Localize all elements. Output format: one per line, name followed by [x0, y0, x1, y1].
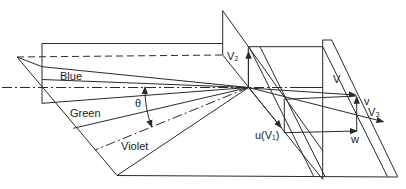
label-u-v1: u(V₁): [255, 129, 280, 141]
vector-w-arrow: [284, 131, 356, 133]
diagram-stage: Blue Green Violet θ V₂ V v V₃ u(V₁) w: [0, 0, 406, 189]
hidden-edge-dashed: [17, 55, 223, 57]
label-green: Green: [70, 107, 101, 119]
label-V: V: [333, 73, 340, 85]
violet-axis-dashdot: [95, 88, 249, 151]
component-box: [284, 96, 356, 133]
label-w: w: [351, 133, 359, 145]
label-violet: Violet: [121, 140, 148, 152]
theta-arc: [145, 87, 152, 126]
spectral-rays: [2, 57, 313, 176]
label-blue: Blue: [60, 70, 82, 82]
label-theta: θ: [135, 97, 141, 109]
label-v2: V₂: [227, 50, 239, 62]
label-v3: V₃: [368, 106, 380, 118]
diagram-canvas: [0, 0, 406, 189]
vector-u-v1-arrow: [249, 88, 282, 128]
